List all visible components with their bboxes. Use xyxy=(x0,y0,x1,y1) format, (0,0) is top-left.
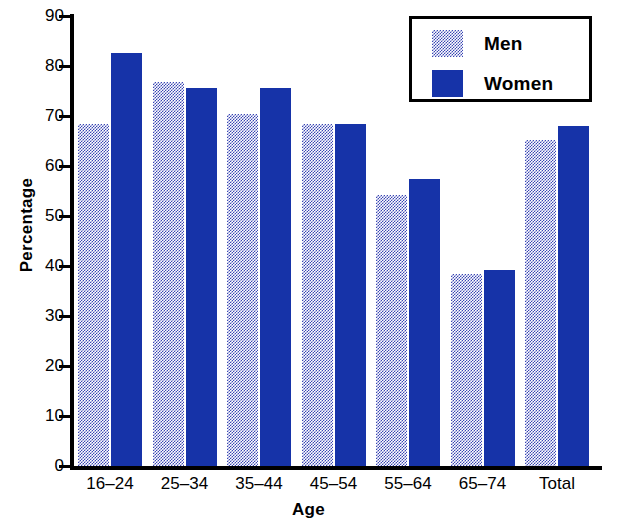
legend-label-women: Women xyxy=(484,73,553,95)
bar-women-2 xyxy=(260,88,291,466)
bar-chart: Percentage 0102030405060708090 16–2425–3… xyxy=(0,0,617,523)
bar-women-6 xyxy=(558,126,589,467)
bar-women-3 xyxy=(335,124,366,466)
y-axis-tick-label: 10 xyxy=(26,407,64,424)
legend-label-men: Men xyxy=(484,33,523,55)
x-axis-title: Age xyxy=(0,500,617,520)
legend-item-women: Women xyxy=(432,70,553,97)
bar-women-0 xyxy=(111,53,142,467)
bar-women-4 xyxy=(409,179,440,466)
y-axis-tick-label: 0 xyxy=(26,457,64,474)
y-axis-tick-label: 40 xyxy=(26,257,64,274)
x-axis-tick-label: Total xyxy=(512,474,602,494)
x-axis-line xyxy=(70,466,602,470)
bar-women-1 xyxy=(186,88,217,467)
legend-swatch-men-icon xyxy=(432,30,463,57)
legend: Men Women xyxy=(409,16,592,102)
y-axis-tick-label: 80 xyxy=(26,57,64,74)
bar-men-4 xyxy=(376,195,407,467)
bar-men-1 xyxy=(153,82,184,466)
y-axis-tick-label: 20 xyxy=(26,357,64,374)
y-axis-tick-label: 70 xyxy=(26,107,64,124)
legend-swatch-women-icon xyxy=(432,70,463,97)
bar-women-5 xyxy=(484,270,515,467)
bar-men-0 xyxy=(78,124,109,467)
y-axis-tick-label: 50 xyxy=(26,207,64,224)
legend-item-men: Men xyxy=(432,30,523,57)
bar-men-5 xyxy=(451,274,482,466)
y-axis-tick-label: 60 xyxy=(26,157,64,174)
bar-men-3 xyxy=(302,124,333,466)
y-axis-tick-label: 30 xyxy=(26,307,64,324)
bar-men-2 xyxy=(227,114,258,467)
bar-men-6 xyxy=(525,140,556,466)
y-axis-tick-label: 90 xyxy=(26,7,64,24)
